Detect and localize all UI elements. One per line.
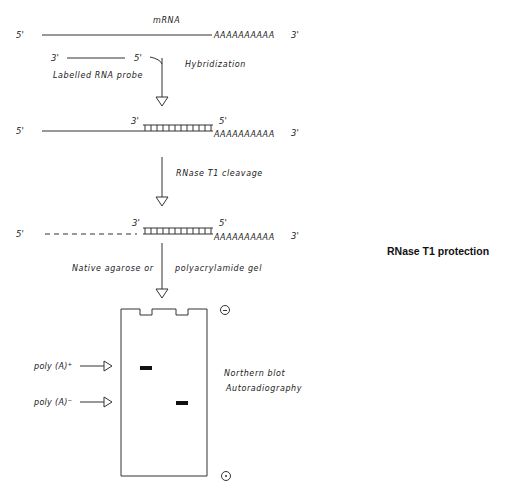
gel-label-left: Native agarose or xyxy=(72,264,154,273)
poly-a-plus-marker: poly (A)+ xyxy=(33,361,112,371)
gel: poly (A)+ poly (A)− Northern blot Autora… xyxy=(33,306,302,481)
northern-blot-label: Northern blot xyxy=(224,369,286,378)
step1-mrna: mRNA 5' AAAAAAAAAA 3' xyxy=(16,16,299,40)
cleaved-five-prime: 5' xyxy=(16,229,24,239)
arrow-head-1 xyxy=(156,97,168,106)
gel-outline-with-wells xyxy=(121,309,207,476)
band-poly-a-plus xyxy=(140,366,152,370)
poly-a-plus-arrow-head xyxy=(104,361,112,371)
figure-title: RNase T1 protection xyxy=(387,245,489,257)
step3-cleaved: 5' 3' 5' AAAAAAAAAA 3' Native agarose or… xyxy=(16,218,299,298)
mrna-three-prime: 3' xyxy=(291,30,299,40)
poly-a-minus-marker: poly (A)− xyxy=(33,397,112,407)
hybrid-three-prime: 3' xyxy=(291,128,299,138)
mrna-five-prime: 5' xyxy=(16,30,24,40)
hybrid-probe-five-prime: 5' xyxy=(219,116,227,126)
probe-label: Labelled RNA probe xyxy=(53,71,143,80)
poly-a-plus-label: poly (A)+ xyxy=(33,361,73,371)
arrow-head-3 xyxy=(156,289,168,298)
cathode-icon xyxy=(221,306,230,315)
probe-three-prime: 3' xyxy=(51,53,59,63)
anode-icon xyxy=(222,472,231,481)
hybridization-label: Hybridization xyxy=(185,60,246,69)
duplex-ladder-2 xyxy=(143,228,213,234)
step2-hybrid: 5' 3' 5' AAAAAAAAAA 3' RNase T1 cleavage xyxy=(16,116,299,206)
cleaved-probe-three-prime: 3' xyxy=(132,218,140,228)
mrna-label: mRNA xyxy=(153,16,180,25)
poly-a-minus-arrow-head xyxy=(104,397,112,407)
probe-five-prime: 5' xyxy=(134,53,142,63)
band-poly-a-minus xyxy=(176,401,188,405)
cleaved-poly-a-tail: AAAAAAAAAA xyxy=(213,233,275,242)
hybrid-probe-three-prime: 3' xyxy=(131,116,139,126)
hybrid-five-prime: 5' xyxy=(16,126,24,136)
gel-label-right: polyacrylamide gel xyxy=(174,264,262,273)
hook-curve xyxy=(150,57,162,64)
cleaved-three-prime: 3' xyxy=(291,231,299,241)
arrow-head-2 xyxy=(156,197,168,206)
step1-probe: 3' 5' Labelled RNA probe Hybridization xyxy=(51,53,246,106)
cleaved-probe-five-prime: 5' xyxy=(219,218,227,228)
duplex-ladder-1 xyxy=(143,125,213,131)
poly-a-tail: AAAAAAAAAA xyxy=(213,31,275,40)
autoradiography-label: Autoradiography xyxy=(225,384,302,393)
poly-a-minus-label: poly (A)− xyxy=(33,397,73,407)
hybrid-poly-a-tail: AAAAAAAAAA xyxy=(213,130,275,139)
cleavage-label: RNase T1 cleavage xyxy=(176,169,263,178)
